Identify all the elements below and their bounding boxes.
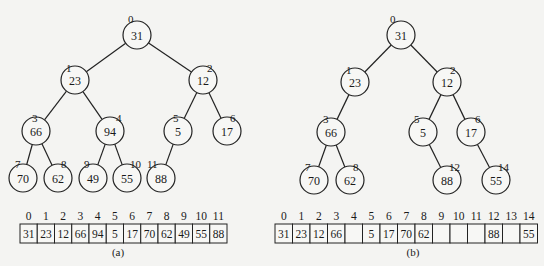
node-value: 17 — [221, 125, 233, 139]
node-index-label: 6 — [475, 113, 481, 125]
array-index-label: 6 — [129, 210, 135, 222]
tree-a-edges — [27, 43, 221, 165]
tree-node: 628 — [336, 161, 364, 194]
array-index-label: 2 — [316, 210, 322, 222]
tree-node: 663 — [22, 112, 50, 145]
figure-a-complete-binary-tree: 3102311226639445517670762849955108811 31… — [9, 13, 241, 259]
array-b: 310231122663455176707628910118812135514 — [275, 210, 538, 243]
array-cell-value: 5 — [368, 228, 374, 240]
node-index-label: 11 — [147, 158, 158, 170]
node-index-label: 5 — [173, 112, 179, 124]
tree-edge — [453, 95, 465, 120]
array-index-label: 1 — [43, 210, 49, 222]
node-value: 70 — [17, 172, 29, 186]
array-index-label: 11 — [213, 210, 224, 222]
node-index-label: 8 — [353, 161, 359, 173]
tree-edge — [209, 93, 221, 119]
node-value: 55 — [121, 172, 133, 186]
array-cell-value: 23 — [40, 228, 52, 240]
node-value: 23 — [69, 74, 81, 88]
node-index-label: 9 — [84, 158, 90, 170]
array-cell-value: 88 — [488, 228, 500, 240]
tree-b-nodes: 3102311226635517670762888125514 — [300, 13, 510, 194]
array-index-label: 3 — [333, 210, 339, 222]
tree-edge — [319, 145, 327, 167]
node-value: 5 — [175, 125, 181, 139]
tree-node: 8812 — [433, 161, 461, 194]
array-index-label: 13 — [506, 210, 518, 222]
tree-edge — [86, 43, 125, 72]
tree-node: 5514 — [482, 161, 510, 194]
node-value: 70 — [308, 174, 320, 188]
array-index-label: 5 — [112, 210, 118, 222]
tree-node: 231 — [341, 64, 369, 96]
array-cell-value: 62 — [418, 228, 430, 240]
tree-node: 8811 — [147, 158, 175, 192]
array-cell-value: 31 — [278, 228, 290, 240]
node-value: 88 — [155, 172, 167, 186]
tree-node: 707 — [300, 161, 328, 194]
array-cell-value: 70 — [401, 228, 413, 240]
node-index-label: 10 — [130, 158, 142, 170]
array-index-label: 12 — [488, 210, 500, 222]
node-index-label: 7 — [15, 158, 21, 170]
tree-edge — [45, 91, 67, 120]
array-index-label: 7 — [403, 210, 409, 222]
tree-node: 628 — [44, 158, 72, 192]
array-index-label: 3 — [78, 210, 84, 222]
node-index-label: 3 — [32, 112, 38, 124]
tree-node: 231 — [61, 62, 89, 94]
array-index-label: 1 — [298, 210, 304, 222]
array-index-label: 10 — [195, 210, 207, 222]
array-cell-value: 23 — [296, 228, 308, 240]
tree-edge — [149, 43, 192, 72]
array-cell-value: 5 — [112, 228, 118, 240]
node-value: 12 — [441, 76, 453, 90]
array-index-label: 9 — [181, 210, 187, 222]
tree-edge — [365, 45, 391, 72]
tree-edge — [477, 144, 489, 167]
array-index-label: 14 — [523, 210, 535, 222]
tree-node: 55 — [409, 113, 437, 146]
node-value: 31 — [131, 29, 143, 43]
figure-b-binary-tree: 3102311226635517670762888125514 31023112… — [275, 13, 538, 259]
array-cell-value: 55 — [195, 228, 207, 240]
tree-edge — [27, 144, 33, 164]
array-cell — [450, 224, 468, 243]
tree-edge — [411, 45, 437, 72]
array-cell-value: 88 — [213, 228, 225, 240]
array-index-label: 8 — [421, 210, 427, 222]
array-cell-value: 17 — [383, 228, 395, 240]
array-cell-value: 62 — [161, 228, 173, 240]
array-cell-value: 31 — [23, 228, 35, 240]
tree-node: 55 — [164, 112, 192, 145]
node-value: 23 — [349, 76, 361, 90]
tree-node: 310 — [123, 13, 151, 49]
node-value: 49 — [87, 172, 99, 186]
array-index-label: 8 — [164, 210, 170, 222]
array-index-label: 7 — [147, 210, 153, 222]
array-cell — [503, 224, 521, 243]
array-index-label: 10 — [453, 210, 465, 222]
node-value: 31 — [395, 29, 407, 43]
node-index-label: 6 — [230, 112, 236, 124]
array-cell-value: 70 — [144, 228, 156, 240]
node-value: 12 — [197, 74, 209, 88]
array-cell — [433, 224, 451, 243]
tree-edge — [115, 144, 122, 165]
array-index-label: 6 — [386, 210, 392, 222]
array-index-label: 0 — [281, 210, 287, 222]
node-value: 88 — [441, 174, 453, 188]
array-index-label: 11 — [471, 210, 482, 222]
array-a: 3102311226639445517670762849955108811 — [20, 210, 227, 243]
caption-a: (a) — [112, 246, 125, 259]
node-index-label: 8 — [61, 158, 67, 170]
tree-node: 663 — [317, 113, 345, 146]
node-index-label: 1 — [66, 62, 72, 74]
tree-node: 122 — [433, 64, 461, 96]
tree-edge — [336, 145, 345, 167]
node-value: 55 — [490, 174, 502, 188]
array-cell-value: 12 — [57, 228, 69, 240]
node-index-label: 14 — [498, 161, 510, 173]
tree-node: 499 — [79, 158, 107, 192]
